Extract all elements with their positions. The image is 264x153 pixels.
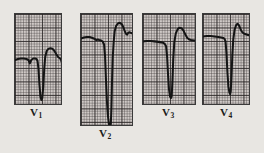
ecg-waveform-v3: [143, 14, 195, 104]
ecg-trace-line-v2: [81, 23, 132, 125]
lead-label-letter-v2: V: [99, 127, 107, 139]
ecg-waveform-v4: [203, 14, 249, 104]
lead-label-letter-v4: V: [220, 106, 228, 118]
lead-label-letter-v3: V: [162, 106, 170, 118]
ecg-trace-line-v1: [15, 48, 61, 100]
ecg-trace-line-v3: [143, 28, 195, 98]
lead-label-letter-v1: V: [30, 106, 38, 118]
ecg-strip-v4: [202, 13, 250, 105]
ecg-strip-v3: [142, 13, 196, 105]
lead-label-subscript-v1: 1: [38, 111, 42, 120]
lead-label-v1: V1: [30, 106, 42, 118]
ecg-trace-line-v4: [203, 24, 249, 94]
lead-label-v2: V2: [99, 127, 111, 139]
ecg-waveform-v1: [15, 14, 61, 104]
lead-label-subscript-v4: 4: [228, 111, 232, 120]
lead-label-v3: V3: [162, 106, 174, 118]
ecg-strip-v2: [80, 13, 133, 126]
lead-label-v4: V4: [220, 106, 232, 118]
ecg-precordial-leads-figure: V1V2V3V4: [0, 0, 264, 153]
ecg-strip-v1: [14, 13, 62, 105]
ecg-waveform-v2: [81, 14, 132, 125]
lead-label-subscript-v2: 2: [107, 132, 111, 141]
lead-label-subscript-v3: 3: [170, 111, 174, 120]
